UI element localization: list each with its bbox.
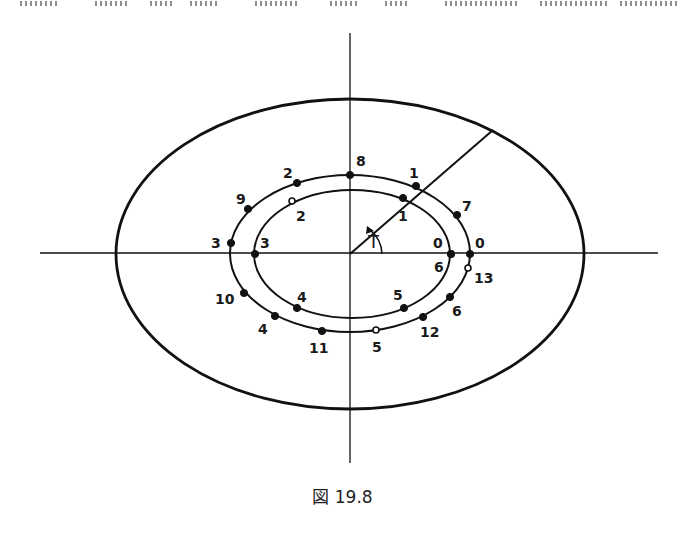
middle-point-3: [227, 239, 234, 246]
angle-label-T: T: [367, 231, 380, 252]
middle-point-label: 4: [258, 321, 268, 337]
middle-point-label: 6: [452, 303, 462, 319]
middle-point-5: [373, 327, 379, 333]
inner-point-6: [447, 250, 454, 257]
middle-point-label: 8: [356, 153, 366, 169]
middle-point-6: [446, 293, 453, 300]
middle-point-label: 5: [372, 339, 382, 355]
middle-point-8: [346, 171, 353, 178]
inner-point-label: 3: [260, 235, 270, 251]
figure-caption: 図 19.8: [0, 483, 685, 508]
inner-ellipse: [254, 190, 450, 318]
middle-point-10: [240, 289, 247, 296]
middle-point-label: 2: [283, 165, 293, 181]
middle-point-label: 10: [215, 291, 235, 307]
middle-point-label: 1: [409, 165, 419, 181]
orbit-diagram: T 817013612511410392 1065432: [0, 0, 685, 534]
middle-point-2: [293, 179, 300, 186]
middle-point-label: 7: [462, 198, 472, 214]
middle-point-0: [466, 250, 473, 257]
middle-point-13: [465, 265, 471, 271]
middle-point-label: 9: [236, 191, 246, 207]
inner-point-4: [293, 304, 300, 311]
middle-point-label: 3: [211, 235, 221, 251]
inner-point-label: 5: [393, 287, 403, 303]
middle-point-4: [271, 312, 278, 319]
inner-point-label: 1: [398, 208, 408, 224]
middle-point-1: [412, 182, 419, 189]
middle-point-label: 12: [420, 324, 439, 340]
middle-point-label: 13: [474, 270, 493, 286]
middle-point-label: 0: [475, 235, 485, 251]
inner-point-label: 2: [296, 208, 306, 224]
inner-point-label: 6: [434, 259, 444, 275]
middle-point-label: 11: [309, 340, 328, 356]
middle-point-11: [318, 327, 325, 334]
inner-point-1: [399, 194, 406, 201]
inner-point-5: [400, 304, 407, 311]
inner-point-3: [251, 250, 258, 257]
middle-point-7: [453, 211, 460, 218]
inner-point-2: [289, 198, 295, 204]
inner-point-label: 4: [297, 289, 307, 305]
middle-point-12: [419, 313, 426, 320]
inner-point-label: 0: [433, 235, 443, 251]
